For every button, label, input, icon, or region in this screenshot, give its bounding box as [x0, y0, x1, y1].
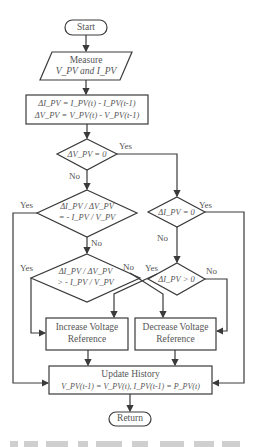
inc-greater-line2: > - I_PV / V_PV: [31, 277, 140, 288]
decrease-line2: Reference: [135, 334, 216, 345]
di-zero-no-label: No: [157, 233, 168, 243]
inc-equal-yes-label: Yes: [20, 200, 33, 210]
inc-equal-line1: ΔI_PV / ΔV_PV: [37, 201, 137, 212]
dv-zero-no-label: No: [69, 171, 80, 181]
di-positive-label: ΔI_PV > 0: [148, 274, 205, 285]
start-label: Start: [65, 22, 107, 33]
measure-vars-label: V_PV and I_PV: [40, 66, 132, 77]
delta-i-formula: ΔI_PV = I_PV(t) - I_PV(t-1): [26, 98, 148, 109]
delta-v-formula: ΔV_PV = V_PV(t) - V_PV(t-1): [26, 110, 148, 121]
return-label: Return: [109, 413, 151, 424]
inc-greater-no-label: No: [123, 262, 134, 272]
dv-zero-label: ΔV_PV = 0: [57, 149, 117, 160]
caption-fragment: [10, 441, 240, 447]
di-positive-no-label: No: [206, 266, 217, 276]
inc-equal-line2: = - I_PV / V_PV: [37, 212, 137, 223]
update-line1: Update History: [49, 369, 212, 380]
measure-label: Measure: [40, 55, 132, 66]
update-line2: V_PV(t-1) = V_PV(t), I_PV(t-1) = P_PV(t): [49, 381, 212, 392]
increase-line2: Reference: [46, 334, 128, 345]
increase-line1: Increase Voltage: [46, 322, 128, 333]
di-zero-yes-label: Yes: [199, 200, 212, 210]
di-zero-label: ΔI_PV = 0: [148, 207, 205, 218]
dv-zero-yes-label: Yes: [119, 141, 132, 151]
decrease-line1: Decrease Voltage: [135, 322, 216, 333]
inc-equal-no-label: No: [91, 238, 102, 248]
di-positive-yes-label: Yes: [145, 263, 158, 273]
inc-greater-yes-label: Yes: [20, 263, 33, 273]
